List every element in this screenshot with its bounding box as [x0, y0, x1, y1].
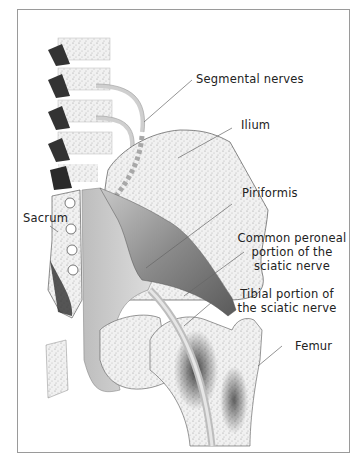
- label-common-peroneal-line2: portion of the: [233, 245, 351, 259]
- label-common-peroneal-line3: sciatic nerve: [233, 259, 351, 273]
- anatomy-illustration: [0, 0, 361, 459]
- label-segmental-nerves: Segmental nerves: [196, 72, 304, 86]
- label-common-peroneal-line1: Common peroneal: [233, 231, 351, 245]
- label-tibial: Tibial portion of the sciatic nerve: [226, 287, 348, 315]
- lumbar-vertebrae: [48, 38, 112, 190]
- label-tibial-line2: the sciatic nerve: [226, 301, 348, 315]
- label-femur: Femur: [295, 339, 332, 353]
- label-sacrum: Sacrum: [23, 211, 68, 225]
- label-ilium: Ilium: [241, 118, 270, 132]
- label-piriformis: Piriformis: [242, 186, 298, 200]
- label-common-peroneal: Common peroneal portion of the sciatic n…: [233, 231, 351, 273]
- label-tibial-line1: Tibial portion of: [226, 287, 348, 301]
